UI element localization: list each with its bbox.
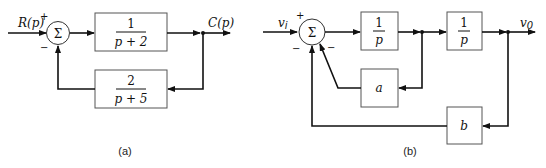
diagram-b: vi + − − Σ 1 p 1 p v0 a b (b) xyxy=(263,10,535,157)
node-to-b-arrow xyxy=(483,32,508,126)
plus-sign-b: + xyxy=(296,10,304,21)
block1-denominator: p xyxy=(375,33,383,47)
plus-sign: + xyxy=(40,11,48,22)
feedback-to-block-arrow xyxy=(168,33,203,89)
minus-sign-right-b: − xyxy=(327,42,335,53)
input-label-b: vi xyxy=(278,16,288,31)
output-label: C(p) xyxy=(208,16,235,30)
forward-numerator: 1 xyxy=(127,17,135,31)
block2-numerator: 1 xyxy=(460,16,468,30)
block2-denominator: p xyxy=(460,33,468,47)
feedback-denominator: p + 5 xyxy=(115,92,148,106)
forward-denominator: p + 2 xyxy=(115,35,148,49)
minus-sign-left-b: − xyxy=(292,43,300,54)
diagram-a: R(p) + − Σ 1 p + 2 C(p) 2 p + 5 (a) xyxy=(8,11,235,157)
caption-a: (a) xyxy=(118,145,131,157)
sum-symbol: Σ xyxy=(54,27,62,41)
minus-sign: − xyxy=(40,42,48,53)
sum-symbol-b: Σ xyxy=(308,26,316,40)
feedback-b-label: b xyxy=(460,119,468,133)
caption-b: (b) xyxy=(403,145,416,157)
feedback-to-sum-arrow xyxy=(58,46,95,89)
node-to-a-arrow xyxy=(399,32,422,88)
feedback-numerator: 2 xyxy=(127,74,135,88)
block1-numerator: 1 xyxy=(375,16,383,30)
output-label-b: v0 xyxy=(520,16,533,31)
feedback-a-label: a xyxy=(375,81,382,95)
block-diagrams: R(p) + − Σ 1 p + 2 C(p) 2 p + 5 (a) vi +… xyxy=(0,0,546,168)
